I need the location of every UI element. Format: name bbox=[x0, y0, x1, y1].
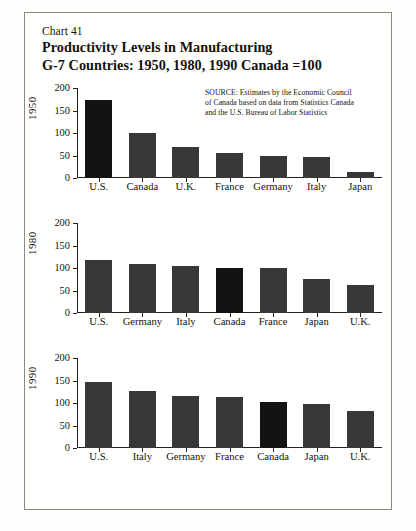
x-tick-label: France bbox=[208, 180, 252, 193]
bar bbox=[85, 100, 112, 178]
chart-panel-1980: 1980200150100500U.S.GermanyItalyCanadaFr… bbox=[30, 223, 386, 348]
x-tick-label: Italy bbox=[121, 450, 165, 463]
plot-area-1980: 1980200150100500U.S.GermanyItalyCanadaFr… bbox=[30, 223, 386, 327]
bar bbox=[260, 268, 287, 313]
x-tick-label: Germany bbox=[251, 180, 295, 193]
chart-number: Chart 41 bbox=[42, 24, 372, 39]
x-axis-labels-1990: U.S.ItalyGermanyFranceCanadaJapanU.K. bbox=[77, 450, 382, 466]
x-tick-label: France bbox=[208, 450, 252, 463]
bar bbox=[303, 404, 330, 448]
plot-area-1950: 1950200150100500U.S.CanadaU.K.FranceGerm… bbox=[30, 88, 386, 192]
y-tick-label: 0 bbox=[44, 308, 70, 318]
x-tick-label: U.S. bbox=[77, 180, 121, 193]
y-tick-label: 0 bbox=[44, 443, 70, 453]
chart-panel-1950: 1950200150100500U.S.CanadaU.K.FranceGerm… bbox=[30, 88, 386, 213]
bar bbox=[347, 285, 374, 313]
y-tick-label: 0 bbox=[44, 173, 70, 183]
bar bbox=[216, 397, 243, 448]
x-tick-label: Canada bbox=[251, 450, 295, 463]
x-tick-label: Japan bbox=[295, 315, 339, 328]
y-tick-label: 150 bbox=[44, 106, 70, 116]
chart-title-line-1: Productivity Levels in Manufacturing bbox=[42, 39, 372, 57]
y-tick-mark bbox=[73, 448, 77, 449]
y-tick-label: 50 bbox=[44, 286, 70, 296]
y-tick-label: 200 bbox=[44, 218, 70, 228]
x-tick-label: Germany bbox=[121, 315, 165, 328]
x-tick-label: Canada bbox=[121, 180, 165, 193]
chart-header: Chart 41 Productivity Levels in Manufact… bbox=[42, 24, 372, 74]
y-tick-label: 50 bbox=[44, 421, 70, 431]
x-tick-label: U.S. bbox=[77, 450, 121, 463]
x-axis-labels-1980: U.S.GermanyItalyCanadaFranceJapanU.K. bbox=[77, 315, 382, 331]
bar bbox=[303, 279, 330, 313]
y-tick-label: 200 bbox=[44, 83, 70, 93]
bar bbox=[129, 391, 156, 448]
x-tick-label: Italy bbox=[295, 180, 339, 193]
bar bbox=[172, 147, 199, 178]
y-tick-label: 100 bbox=[44, 128, 70, 138]
bar-series-1950 bbox=[77, 88, 382, 178]
x-tick-label: U.K. bbox=[164, 180, 208, 193]
bar bbox=[129, 133, 156, 178]
y-axis-labels-1990: 200150100500 bbox=[44, 358, 70, 448]
plot-area-1990: 1990200150100500U.S.ItalyGermanyFranceCa… bbox=[30, 358, 386, 462]
x-tick-label: Canada bbox=[208, 315, 252, 328]
y-axis-era-label-1950: 1950 bbox=[26, 96, 38, 120]
x-tick-label: Germany bbox=[164, 450, 208, 463]
axes-1990 bbox=[77, 358, 382, 448]
bar bbox=[216, 153, 243, 178]
x-tick-label: U.K. bbox=[338, 315, 382, 328]
bar bbox=[260, 156, 287, 179]
chart-title-line-2: G-7 Countries: 1950, 1980, 1990 Canada =… bbox=[42, 57, 372, 75]
bar bbox=[172, 266, 199, 313]
y-tick-label: 200 bbox=[44, 353, 70, 363]
x-tick-label: Japan bbox=[338, 180, 382, 193]
bar bbox=[85, 382, 112, 448]
bar-series-1990 bbox=[77, 358, 382, 448]
x-tick-label: U.S. bbox=[77, 315, 121, 328]
x-tick-label: Japan bbox=[295, 450, 339, 463]
y-axis-era-label-1990: 1990 bbox=[26, 366, 38, 390]
bar bbox=[216, 268, 243, 313]
y-axis-era-label-1980: 1980 bbox=[26, 231, 38, 255]
y-axis-labels-1950: 200150100500 bbox=[44, 88, 70, 178]
y-tick-label: 50 bbox=[44, 151, 70, 161]
bar-series-1980 bbox=[77, 223, 382, 313]
y-axis-labels-1980: 200150100500 bbox=[44, 223, 70, 313]
x-tick-label: France bbox=[251, 315, 295, 328]
chart-panel-1990: 1990200150100500U.S.ItalyGermanyFranceCa… bbox=[30, 358, 386, 486]
y-tick-label: 150 bbox=[44, 241, 70, 251]
x-axis-labels-1950: U.S.CanadaU.K.FranceGermanyItalyJapan bbox=[77, 180, 382, 196]
y-tick-label: 100 bbox=[44, 263, 70, 273]
chart-page: Chart 41 Productivity Levels in Manufact… bbox=[0, 0, 416, 531]
y-tick-mark bbox=[73, 178, 77, 179]
y-tick-label: 150 bbox=[44, 376, 70, 386]
bar bbox=[303, 157, 330, 178]
axes-1950 bbox=[77, 88, 382, 178]
bar bbox=[347, 172, 374, 178]
x-tick-label: U.K. bbox=[338, 450, 382, 463]
bar bbox=[129, 264, 156, 313]
bar bbox=[172, 396, 199, 448]
bar bbox=[85, 260, 112, 313]
bar bbox=[260, 402, 287, 448]
y-tick-label: 100 bbox=[44, 398, 70, 408]
x-tick-label: Italy bbox=[164, 315, 208, 328]
axes-1980 bbox=[77, 223, 382, 313]
bar bbox=[347, 411, 374, 448]
y-tick-mark bbox=[73, 313, 77, 314]
